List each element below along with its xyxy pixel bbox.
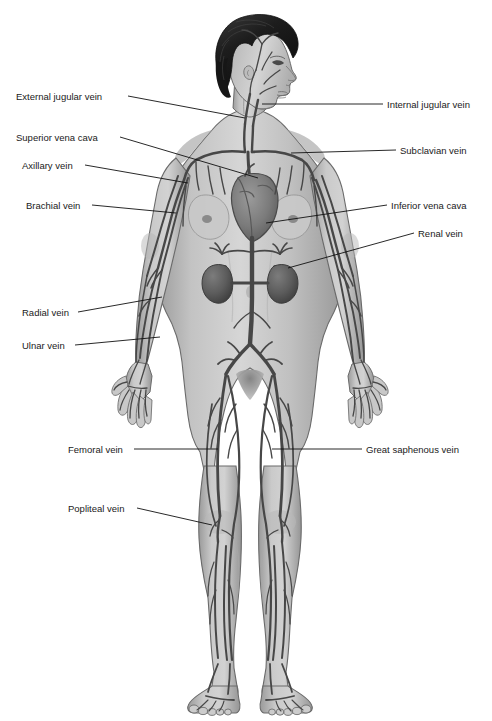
label-femoral-vein: Femoral vein: [68, 444, 123, 455]
label-internal-jugular-vein: Internal jugular vein: [387, 99, 470, 110]
label-subclavian-vein: Subclavian vein: [400, 145, 467, 156]
label-popliteal-vein: Popliteal vein: [68, 503, 125, 514]
label-inferior-vena-cava: Inferior vena cava: [391, 200, 467, 211]
diagram-page: External jugular veinSuperior vena cavaA…: [0, 0, 492, 721]
label-axillary-vein: Axillary vein: [22, 160, 73, 171]
label-brachial-vein: Brachial vein: [26, 200, 80, 211]
label-radial-vein: Radial vein: [22, 307, 69, 318]
labels-layer: External jugular veinSuperior vena cavaA…: [0, 0, 492, 721]
label-renal-vein: Renal vein: [418, 228, 463, 239]
label-superior-vena-cava: Superior vena cava: [16, 132, 98, 143]
label-external-jugular-vein: External jugular vein: [16, 91, 102, 102]
label-great-saphenous-vein: Great saphenous vein: [366, 444, 459, 455]
label-ulnar-vein: Ulnar vein: [22, 340, 65, 351]
